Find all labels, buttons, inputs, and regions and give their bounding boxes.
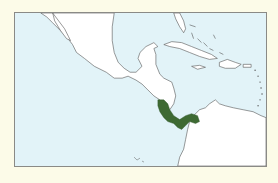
puerto-rico xyxy=(243,64,251,67)
map-frame xyxy=(14,12,267,167)
range-map xyxy=(15,13,266,166)
